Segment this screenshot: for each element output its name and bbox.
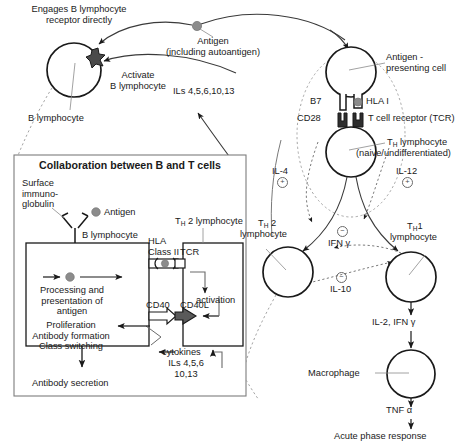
outcomes-label: Proliferation Antibody formation Class s… <box>22 320 120 352</box>
il12-label: IL-12 <box>396 166 417 177</box>
inset-title: Collaboration between B and T cells <box>16 160 244 171</box>
antigen-label: Antigen <box>150 36 276 47</box>
apc-label: Antigen - presenting cell <box>386 52 446 73</box>
th1-num: 1 <box>417 221 422 231</box>
cytokines-label: cytokines <box>162 347 201 358</box>
surface-immunoglobulin-label: Surface immuno- globulin <box>22 178 58 210</box>
il4-label: IL-4 <box>272 166 288 177</box>
il4-plus-sign: + <box>277 177 288 188</box>
th2-cell <box>263 247 313 297</box>
th2-sublabel: lymphocyte <box>240 229 287 240</box>
il12-plus-sign: + <box>402 177 413 188</box>
il2-ifn-label: IL-2, IFN γ <box>372 317 415 328</box>
activation-label: activation <box>196 295 235 306</box>
inset-th2-label: TH 2 lymphocyte <box>175 216 243 229</box>
macrophage-label: Macrophage <box>308 368 360 379</box>
inset-th2-rest: 2 lymphocyte <box>185 216 242 226</box>
b-lymphocyte-label: B lymphocyte <box>28 113 84 124</box>
tnf-alpha-label: TNF α <box>386 405 412 416</box>
th1-sublabel: lymphocyte <box>390 232 437 243</box>
cd28-label: CD28 <box>297 113 321 124</box>
b7-molecule <box>340 94 346 110</box>
inset-peptide-dot <box>161 260 168 267</box>
engages-receptor-label: Engages B lymphocyte receptor directly <box>4 4 154 25</box>
tcr-molecule <box>353 113 363 127</box>
il10-label: IL-10 <box>330 284 351 295</box>
antigen-presenting-cell <box>326 47 376 97</box>
inset-b-lymphocyte-label: B lymphocyte <box>82 230 138 241</box>
macrophage-cell <box>387 350 435 398</box>
inset-tcr-glyph <box>175 259 185 268</box>
th-naive-qualifier-label: (naive/undifferentiated) <box>356 148 451 159</box>
il4-dashed-arrow <box>306 142 318 222</box>
inset-tcr-label: TCR <box>180 247 199 258</box>
b7-label: B7 <box>310 96 321 107</box>
inset-antigen-label: Antigen <box>104 207 136 218</box>
arrow-antigen-to-apc <box>330 30 348 49</box>
dashed-guide-th2-to-inset <box>243 295 276 372</box>
cd28-molecule <box>338 113 347 127</box>
ils-top-label: ILs 4,5,6,10,13 <box>173 86 235 97</box>
ifn-gamma-label: IFN γ <box>328 238 350 249</box>
cd40-label: CD40 <box>146 300 170 311</box>
th1-cell <box>386 252 436 302</box>
inset-antigen-dot <box>92 208 101 217</box>
ifn-gamma-minus-sign: − <box>337 226 348 237</box>
diagram-canvas: Engages B lymphocyte receptor directly A… <box>0 0 462 444</box>
th2-num: 2 <box>268 218 276 228</box>
acute-phase-label: Acute phase response <box>334 431 427 442</box>
il10-minus-sign: − <box>336 272 347 283</box>
dashed-guide-inset-bottom-right <box>246 380 259 400</box>
processed-antigen-dot <box>66 273 75 282</box>
antigen-qualifier-label: (including autoantigen) <box>134 47 292 58</box>
activate-b-lymphocyte-label: Activate B lymphocyte <box>96 70 180 91</box>
tcr-label: T cell receptor (TCR) <box>368 113 455 124</box>
hla-i-label: HLA I <box>366 96 389 107</box>
cytokine-ils-label: ILs 4,5,6 10,13 <box>156 358 216 379</box>
hla-class-ii-label: HLA Class II <box>148 236 179 257</box>
antibody-secretion-label: Antibody secretion <box>32 378 109 389</box>
th-naive-rest: lymphocyte <box>397 137 447 147</box>
peptide-dot <box>354 98 362 106</box>
processing-label: Processing and presentation of antigen <box>24 285 120 317</box>
